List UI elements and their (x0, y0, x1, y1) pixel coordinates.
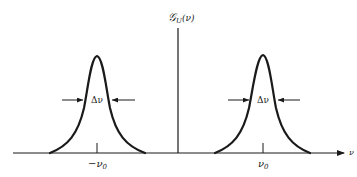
right-bandwidth-label: Δν (257, 96, 269, 105)
y-axis-label: 𝒢U(ν) (168, 12, 194, 25)
positive-center-label: ν0 (258, 159, 269, 171)
negative-nu-subscript: 0 (102, 163, 106, 171)
positive-nu-subscript: 0 (264, 163, 268, 171)
left-bandwidth-label: Δν (91, 96, 103, 105)
y-axis-argument: (ν) (182, 13, 195, 23)
x-axis-label: ν (349, 149, 354, 157)
negative-nu-symbol: −ν (88, 158, 102, 169)
negative-center-label: −ν0 (88, 159, 107, 171)
y-axis-symbol: 𝒢 (168, 11, 176, 24)
spectrum-diagram (0, 0, 357, 177)
